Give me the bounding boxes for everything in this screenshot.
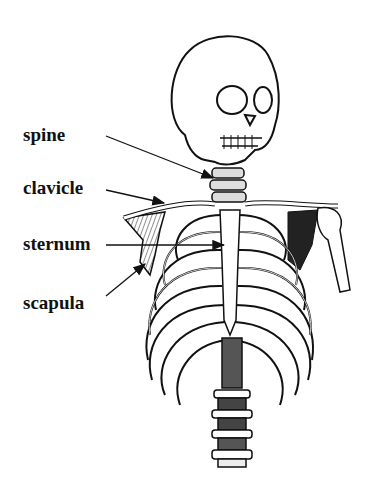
label-clavicle: clavicle (23, 178, 83, 197)
label-spine: spine (23, 125, 65, 144)
clavicle-arrow (106, 190, 164, 203)
scapula-arrow (106, 264, 145, 296)
sternum (220, 210, 240, 335)
cervical-spine (210, 168, 246, 202)
lower-spine (212, 338, 252, 467)
humerus-right (317, 207, 350, 292)
label-sternum: sternum (23, 234, 91, 253)
scapula-right (288, 210, 318, 270)
label-scapula: scapula (23, 293, 84, 312)
skull (172, 36, 279, 164)
scapula-left (124, 212, 165, 275)
